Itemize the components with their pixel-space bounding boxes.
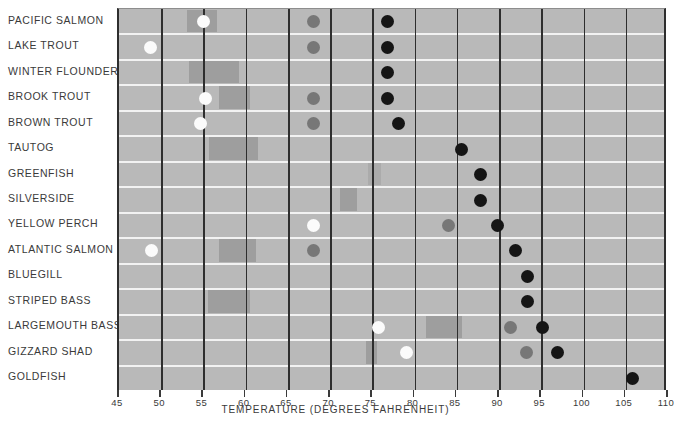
row-label-tautog: TAUTOG (8, 142, 54, 153)
preferred-range-band (368, 163, 381, 185)
white-marker (372, 321, 385, 334)
row-separator (119, 237, 664, 239)
row-separator (119, 212, 664, 214)
chart-row (119, 136, 664, 161)
black-marker (381, 41, 394, 54)
axis-tick-110 (666, 390, 668, 397)
row-label-silverside: SILVERSIDE (8, 193, 75, 204)
row-label-goldfish: GOLDFISH (8, 371, 66, 382)
row-label-bluegill: BLUEGILL (8, 269, 63, 280)
gray-marker (307, 92, 320, 105)
row-label-largemouth-bass: LARGEMOUTH BASS (8, 320, 121, 331)
chart-row (119, 340, 664, 365)
white-marker (307, 219, 320, 232)
row-label-brown-trout: BROWN TROUT (8, 117, 93, 128)
preferred-range-band (189, 61, 239, 83)
chart-row (119, 289, 664, 314)
row-label-brook-trout: BROOK TROUT (8, 91, 91, 102)
black-marker (474, 168, 487, 181)
preferred-range-band (340, 188, 357, 210)
axis-tick-105 (624, 390, 626, 397)
chart-row (119, 264, 664, 289)
black-marker (455, 143, 468, 156)
row-separator (119, 288, 664, 290)
black-marker (626, 372, 639, 385)
row-separator (119, 365, 664, 367)
chart-row (119, 162, 664, 187)
row-label-lake-trout: LAKE TROUT (8, 40, 79, 51)
axis-tick-55 (201, 390, 203, 397)
chart-row (119, 213, 664, 238)
gray-marker (442, 219, 455, 232)
white-marker (145, 244, 158, 257)
gridline-100 (584, 9, 586, 390)
chart-row (119, 315, 664, 340)
axis-tick-90 (497, 390, 499, 397)
axis-tick-50 (159, 390, 161, 397)
row-label-pacific-salmon: PACIFIC SALMON (8, 15, 104, 26)
row-separator (119, 135, 664, 137)
axis-tick-80 (413, 390, 415, 397)
gridline-70 (330, 9, 332, 390)
black-marker (491, 219, 504, 232)
white-marker (144, 41, 157, 54)
axis-tick-60 (244, 390, 246, 397)
row-separator (119, 84, 664, 86)
preferred-range-band (208, 290, 250, 312)
black-marker (381, 92, 394, 105)
axis-tick-65 (286, 390, 288, 397)
axis-tick-45 (117, 390, 119, 397)
axis-tick-95 (539, 390, 541, 397)
row-label-striped-bass: STRIPED BASS (8, 295, 91, 306)
axis-tick-70 (328, 390, 330, 397)
gridline-105 (626, 9, 628, 390)
axis-tick-85 (455, 390, 457, 397)
gray-marker (307, 41, 320, 54)
row-label-greenfish: GREENFISH (8, 168, 74, 179)
row-separator (119, 110, 664, 112)
row-separator (119, 161, 664, 163)
gridline-60 (246, 9, 248, 390)
white-marker (194, 117, 207, 130)
chart-row (119, 366, 664, 390)
gridline-80 (415, 9, 417, 390)
row-separator (119, 33, 664, 35)
gridline-55 (203, 9, 205, 390)
row-separator (119, 314, 664, 316)
row-label-winter-flounder: WINTER FLOUNDER (8, 66, 118, 77)
row-label-yellow-perch: YELLOW PERCH (8, 218, 98, 229)
row-separator (119, 59, 664, 61)
plot-area (117, 8, 666, 390)
black-marker (474, 194, 487, 207)
axis-tick-75 (370, 390, 372, 397)
gray-marker (307, 15, 320, 28)
chart-row (119, 187, 664, 212)
gridline-75 (372, 9, 374, 390)
gridline-65 (288, 9, 290, 390)
row-label-atlantic-salmon: ATLANTIC SALMON (8, 244, 114, 255)
chart-row (119, 238, 664, 263)
preferred-range-band (219, 239, 256, 261)
axis-tick-100 (582, 390, 584, 397)
gridline-85 (457, 9, 459, 390)
row-separator (119, 263, 664, 265)
gray-marker (307, 117, 320, 130)
gridline-50 (161, 9, 163, 390)
white-marker (400, 346, 413, 359)
x-axis: 4550556065707580859095100105110 (117, 390, 666, 400)
row-separator (119, 339, 664, 341)
gridline-90 (499, 9, 501, 390)
row-separator (119, 186, 664, 188)
row-label-gizzard-shad: GIZZARD SHAD (8, 346, 93, 357)
preferred-range-band (209, 137, 259, 159)
x-axis-title: TEMPERATURE (DEGREES FAHRENHEIT) (0, 404, 671, 415)
